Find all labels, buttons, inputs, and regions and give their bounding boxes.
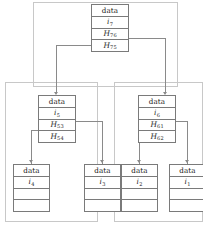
node-leaf-2-empty-cell-1 [122,189,157,201]
node-root-hash76-base: H [103,30,110,37]
edge-mid-left-h53-arrowhead [100,160,104,163]
node-leaf-4-empty-cell-2 [14,200,49,211]
edge-mid-right-h62-arrowhead [137,160,141,163]
node-root-index-cell: i7 [92,17,128,29]
node-mid-right-hash62-base: H [150,133,157,140]
node-mid-right-data-cell: data [139,96,175,108]
node-root-hash75-base: H [103,42,110,49]
node-mid-left-hash53-base: H [50,121,57,128]
node-mid-right-hash61-base: H [150,121,157,128]
node-leaf-1-data-cell: data [170,165,203,177]
node-root-hash75-subscript: 75 [110,45,117,50]
node-mid-right-hash62-subscript: 62 [157,136,164,141]
node-leaf-2: data i2 [121,164,158,212]
node-root-data-cell: data [92,5,128,17]
node-leaf-4: data i4 [13,164,50,212]
node-root-hash76-subscript: 76 [110,33,117,38]
node-mid-right-hash-cell-61: H61 [139,120,175,132]
node-leaf-1-empty-cell-2 [170,200,203,211]
node-mid-left-hash54-subscript: 54 [57,136,64,141]
node-leaf-2-index-subscript: 2 [139,182,142,187]
node-leaf-3-index-cell: i3 [85,177,120,189]
edge-root-h75-horizontal [56,45,91,46]
node-leaf-1-empty-cell-1 [170,189,203,201]
node-leaf-4-data-cell: data [14,165,49,177]
node-leaf-3: data i3 [84,164,121,212]
node-leaf-4-empty-cell-1 [14,189,49,201]
edge-root-h76-horizontal [129,38,166,39]
node-leaf-4-index-cell: i4 [14,177,49,189]
node-root: data i7 H76 H75 [91,4,129,52]
node-leaf-2-data-cell: data [122,165,157,177]
node-root-hash-cell-76: H76 [92,29,128,41]
edge-root-h76-vertical [165,38,166,93]
node-mid-left-index-cell: i5 [39,108,75,120]
node-root-index-subscript: 7 [110,22,113,27]
node-mid-right-hash-cell-62: H62 [139,131,175,142]
edge-mid-left-h54-vertical [31,130,32,164]
node-leaf-3-empty-cell-2 [85,200,120,211]
node-leaf-3-data-cell: data [85,165,120,177]
edge-mid-left-h54-arrowhead [29,160,33,163]
node-mid-right: data i6 H61 H62 [138,95,176,143]
node-leaf-3-empty-cell-1 [85,189,120,201]
node-leaf-4-index-subscript: 4 [31,182,34,187]
node-mid-left-hash-cell-53: H53 [39,120,75,132]
node-mid-left: data i5 H53 H54 [38,95,76,143]
node-root-hash-cell-75: H75 [92,40,128,51]
hash-tree-diagram: data i7 H76 H75 data i5 H53 H54 data i6 … [0,0,203,230]
edge-root-h75-vertical [56,45,57,93]
node-mid-right-index-subscript: 6 [157,113,160,118]
node-mid-left-data-cell: data [39,96,75,108]
node-mid-left-index-subscript: 5 [57,113,60,118]
node-leaf-3-index-subscript: 3 [102,182,105,187]
node-mid-right-index-cell: i6 [139,108,175,120]
node-leaf-1: data i1 [169,164,203,212]
edge-mid-left-h53-vertical [102,121,103,164]
node-mid-left-hash54-base: H [50,133,57,140]
node-leaf-1-index-subscript: 1 [187,182,190,187]
node-leaf-2-index-cell: i2 [122,177,157,189]
edge-mid-left-h53-horizontal [76,121,103,122]
node-leaf-2-empty-cell-2 [122,200,157,211]
node-mid-left-hash53-subscript: 53 [57,124,64,129]
edge-mid-right-h61-vertical [187,121,188,164]
node-mid-left-hash-cell-54: H54 [39,131,75,142]
node-leaf-1-index-cell: i1 [170,177,203,189]
node-mid-right-hash61-subscript: 61 [157,124,164,129]
edge-mid-right-h61-arrowhead [185,160,189,163]
